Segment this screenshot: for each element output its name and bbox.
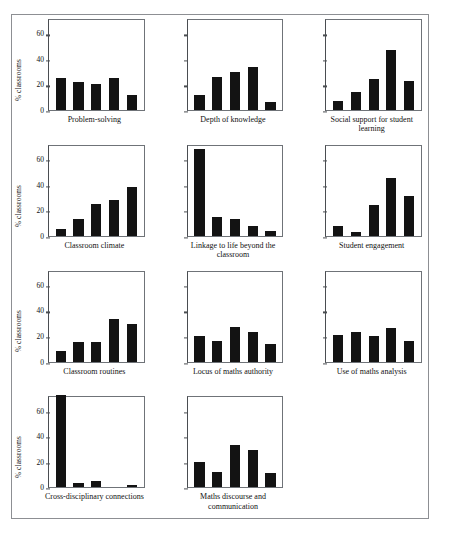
chart-panel: % classrooms0204060Depth of knowledge: [151, 15, 290, 141]
chart-panel: % classrooms0204060Problem-solving: [12, 15, 151, 141]
y-axis-label: % classrooms: [15, 296, 23, 366]
y-tick-label: 20: [37, 207, 45, 215]
chart-panel: % classrooms0204060Cross-disciplinary co…: [12, 392, 151, 518]
bar: [369, 336, 379, 362]
bar: [56, 351, 66, 361]
panel-title: Social support for student learning: [319, 115, 424, 134]
plot-area: [187, 396, 284, 488]
y-tick-label: 60: [37, 282, 45, 290]
bar: [248, 226, 258, 236]
bar: [109, 78, 119, 110]
bar: [127, 95, 137, 110]
plot-area: [48, 396, 145, 488]
y-tick-label: 40: [37, 182, 45, 190]
bar: [265, 231, 275, 236]
y-tick-mark: [46, 237, 50, 238]
y-axis-label: % classrooms: [15, 45, 23, 115]
chart-panel: % classrooms0204060Classroom climate: [12, 141, 151, 267]
y-axis-tick-labels: 0204060: [26, 271, 44, 363]
y-tick-mark: [46, 489, 50, 490]
bar: [91, 204, 101, 236]
bar: [230, 219, 240, 236]
bar: [404, 196, 414, 236]
panel-title: Student engagement: [319, 241, 424, 250]
y-tick-mark: [184, 111, 188, 112]
panel-axes: % classrooms0204060Classroom climate: [12, 145, 147, 267]
panel-axes: % classrooms0204060Linkage to life beyon…: [151, 145, 286, 267]
bar-series: [49, 146, 144, 236]
bar-series: [49, 20, 144, 110]
panel-axes: % classrooms0204060Cross-disciplinary co…: [12, 396, 147, 518]
bar-series: [326, 20, 421, 110]
bar: [109, 319, 119, 361]
panel-axes: % classrooms0204060Locus of maths author…: [151, 271, 286, 393]
bar-series: [188, 272, 283, 362]
bar-series: [188, 397, 283, 487]
bar-series: [326, 272, 421, 362]
chart-panel: % classrooms0204060Use of maths analysis: [289, 267, 428, 393]
bar: [333, 335, 343, 362]
bar: [265, 344, 275, 362]
panel-title: Depth of knowledge: [181, 115, 286, 124]
y-tick-mark: [323, 363, 327, 364]
bar: [194, 95, 204, 110]
panel-axes: % classrooms0204060Depth of knowledge: [151, 19, 286, 141]
bar: [212, 472, 222, 487]
panel-title: Linkage to life beyond the classroom: [181, 241, 286, 260]
bar: [73, 483, 83, 487]
panel-axes: % classrooms0204060Student engagement: [289, 145, 424, 267]
plot-area: [325, 271, 422, 363]
figure-outer-frame: % classrooms0204060Problem-solving% clas…: [11, 14, 429, 519]
bar: [127, 187, 137, 236]
y-tick-mark: [46, 111, 50, 112]
y-tick-label: 20: [37, 459, 45, 467]
bar-series: [188, 146, 283, 236]
y-axis-label: % classrooms: [15, 422, 23, 492]
y-tick-mark: [46, 363, 50, 364]
bar: [230, 327, 240, 362]
bar: [109, 200, 119, 236]
plot-area: [325, 145, 422, 237]
panel-title: Classroom climate: [42, 241, 147, 250]
panel-title: Cross-disciplinary connections: [42, 492, 147, 501]
bar-series: [49, 397, 144, 487]
panel-grid: % classrooms0204060Problem-solving% clas…: [12, 15, 428, 518]
chart-panel: % classrooms0204060Classroom routines: [12, 267, 151, 393]
plot-area: [187, 19, 284, 111]
chart-panel: % classrooms0204060Linkage to life beyon…: [151, 141, 290, 267]
bar: [73, 82, 83, 110]
bar: [73, 219, 83, 236]
bar: [73, 342, 83, 361]
panel-title: Locus of maths authority: [181, 367, 286, 376]
y-tick-label: 0: [40, 359, 44, 367]
y-axis-tick-labels: 0204060: [26, 396, 44, 488]
bar: [194, 336, 204, 362]
bar: [351, 92, 361, 110]
bar: [369, 205, 379, 236]
y-axis-tick-labels: 0204060: [26, 145, 44, 237]
bar: [230, 445, 240, 487]
panel-axes: % classrooms0204060Maths discourse and c…: [151, 396, 286, 518]
plot-area: [48, 19, 145, 111]
bar: [265, 473, 275, 487]
bar: [212, 341, 222, 361]
y-tick-label: 0: [40, 233, 44, 241]
panel-title: Classroom routines: [42, 367, 147, 376]
bar: [351, 332, 361, 361]
bar: [248, 67, 258, 110]
bar: [56, 395, 66, 487]
bar: [351, 232, 361, 236]
bar: [248, 332, 258, 361]
chart-panel: % classrooms0204060Social support for st…: [289, 15, 428, 141]
bar: [212, 77, 222, 110]
bar: [127, 485, 137, 488]
y-tick-label: 20: [37, 82, 45, 90]
chart-panel: % classrooms0204060Maths discourse and c…: [151, 392, 290, 518]
bar-series: [188, 20, 283, 110]
y-tick-label: 0: [40, 107, 44, 115]
bar: [386, 328, 396, 361]
y-axis-tick-labels: 0204060: [26, 19, 44, 111]
plot-area: [48, 145, 145, 237]
bar: [91, 342, 101, 361]
y-tick-mark: [184, 363, 188, 364]
